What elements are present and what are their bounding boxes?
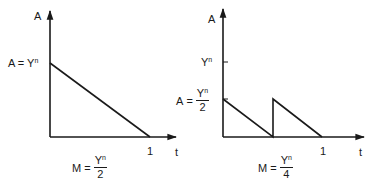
right-intercept-label: A = Yn 2 (176, 88, 209, 113)
right-x-tick-label: 1 (320, 146, 326, 157)
right-y-tick-label: Yn (201, 57, 212, 68)
left-caption: M = Yn 2 (72, 155, 107, 180)
left-intercept-label: A = Yn (8, 58, 38, 69)
left-x-tick-label: 1 (147, 146, 153, 157)
left-x-axis-label: t (175, 147, 178, 158)
left-series-line (50, 63, 150, 137)
right-series-sawtooth (223, 99, 322, 137)
left-chart (50, 11, 176, 137)
right-x-axis-label: t (359, 147, 362, 158)
right-caption: M = Yn 4 (258, 155, 293, 180)
left-y-axis-label: A (34, 11, 41, 22)
right-y-axis-label: A (208, 14, 215, 25)
right-chart (223, 9, 364, 137)
